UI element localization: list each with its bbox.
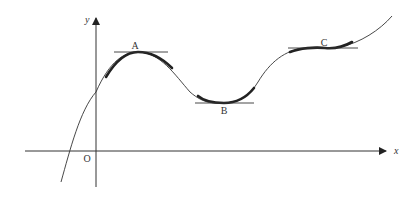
- point-label-A: A: [131, 40, 139, 51]
- highlight-B: [198, 88, 254, 103]
- function-curve: [61, 16, 392, 182]
- highlight-A: [106, 52, 172, 77]
- x-axis-label: x: [393, 145, 399, 156]
- origin-label: O: [83, 153, 90, 164]
- point-label-B: B: [221, 105, 228, 116]
- point-label-C: C: [321, 37, 328, 48]
- y-axis-label: y: [84, 14, 90, 25]
- function-graph: A B C O x y: [0, 0, 417, 201]
